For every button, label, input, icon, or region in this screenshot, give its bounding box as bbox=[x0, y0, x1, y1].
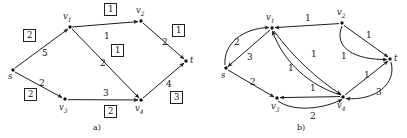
edge-b-t-v4-curved bbox=[346, 62, 392, 99]
edge-b-v1-v4-curved bbox=[274, 31, 341, 95]
edge-b-v4-v1-curved bbox=[273, 31, 342, 95]
edge-weight-a-s-v1: 5 bbox=[42, 49, 48, 58]
edge-weight-b-v4-v3: 1 bbox=[310, 84, 316, 93]
node-b-v2 bbox=[340, 21, 343, 24]
caption-panel-b: b) bbox=[297, 124, 305, 132]
edge-b-v2-v1 bbox=[275, 24, 339, 28]
edge-weight-a-v2-t: 2 bbox=[162, 38, 168, 47]
boxed-label-5: 2 bbox=[24, 88, 37, 101]
boxed-label-3: 1 bbox=[172, 24, 185, 37]
node-label-b-v1: v1 bbox=[266, 13, 275, 24]
node-label-a-v2: v2 bbox=[136, 6, 145, 17]
graph-canvas bbox=[0, 0, 407, 138]
node-b-v1 bbox=[270, 26, 273, 29]
edge-weight-a-v1-v4: 2 bbox=[100, 59, 106, 68]
node-b-v3 bbox=[275, 96, 278, 99]
node-label-a-t: t bbox=[190, 56, 193, 65]
node-a-t bbox=[184, 59, 187, 62]
boxed-label-6: 2 bbox=[104, 105, 117, 118]
edge-weight-a-s-v3: 2 bbox=[39, 79, 45, 88]
node-label-b-s: s bbox=[221, 71, 225, 80]
edge-weight-b-v3-v4: 2 bbox=[310, 112, 316, 121]
node-a-v3 bbox=[63, 97, 66, 100]
node-label-a-v3: v3 bbox=[59, 103, 68, 114]
node-a-v2 bbox=[139, 19, 142, 22]
boxed-label-4: 1 bbox=[111, 44, 124, 57]
node-label-b-v4: v4 bbox=[337, 101, 346, 112]
node-label-b-v2: v2 bbox=[337, 8, 346, 19]
edge-weight-b-s-v3: 2 bbox=[250, 78, 256, 87]
edge-b-v2-t-curved bbox=[340, 26, 387, 60]
edge-weight-b-v1-s: 3 bbox=[247, 53, 253, 62]
edge-weight-b-v2-v1: 1 bbox=[305, 14, 311, 23]
node-label-b-v3: v3 bbox=[271, 102, 280, 113]
node-label-a-v1: v1 bbox=[63, 12, 72, 23]
figure-graph-pair: s v1 v2 v3 v4 t 5 1 2 2 3 2 4 2 1 1 1 2 … bbox=[0, 0, 407, 138]
node-label-b-t: t bbox=[394, 54, 397, 63]
boxed-label-7: 3 bbox=[170, 91, 183, 104]
edge-weight-a-v3-v4: 3 bbox=[103, 89, 109, 98]
node-b-v4 bbox=[341, 95, 344, 98]
caption-panel-a: a) bbox=[93, 124, 101, 132]
edge-weight-b-v4-v1: 1 bbox=[288, 64, 294, 73]
edge-weight-b-v4-t: 1 bbox=[364, 71, 370, 80]
edge-weight-b-s-v1: 2 bbox=[234, 38, 240, 47]
edge-weight-a-v1-v2: 1 bbox=[104, 32, 110, 41]
node-b-t bbox=[388, 57, 391, 60]
node-a-v1 bbox=[68, 25, 71, 28]
boxed-label-1: 2 bbox=[23, 29, 36, 42]
node-label-a-s: s bbox=[8, 72, 12, 81]
edge-weight-a-v4-t: 4 bbox=[166, 80, 172, 89]
edge-a-v1-v2 bbox=[72, 22, 138, 27]
node-label-a-v4: v4 bbox=[135, 104, 144, 115]
boxed-label-2: 1 bbox=[104, 3, 117, 16]
edge-weight-b-v2-t: 1 bbox=[366, 31, 372, 40]
node-a-v4 bbox=[139, 98, 142, 101]
edge-weight-b-v1-v4: 1 bbox=[311, 50, 317, 59]
edge-b-v4-v3 bbox=[280, 97, 340, 98]
edge-weight-b-t-v4: 3 bbox=[376, 88, 382, 97]
edge-b-v3-v4-curved bbox=[278, 100, 342, 109]
edge-weight-b-v2-t-curved: 1 bbox=[341, 52, 347, 61]
